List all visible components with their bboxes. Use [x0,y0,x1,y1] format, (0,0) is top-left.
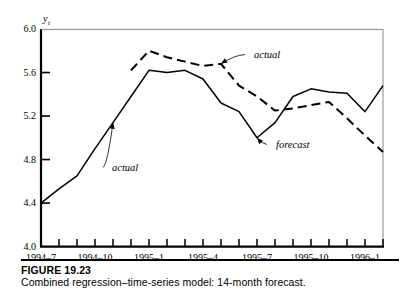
series-line-actual-solid [41,70,383,203]
y-tick-label: 4.8 [24,154,37,165]
plot-axes [40,29,384,247]
caption-text: Combined regression–time-series model: 1… [21,276,401,289]
y-tick-label: 6.0 [24,23,37,34]
y-tick-label: 4.0 [24,241,37,252]
data-series-layer [41,51,383,203]
y-tick-label: 5.6 [24,67,37,78]
line-chart: yt 6.05.65.24.84.44.0 1994–71994–101995–… [0,0,406,297]
annotation-arrowhead [257,138,263,144]
annotation-label-actual: actual [254,49,280,60]
y-axis-title: yt [42,13,51,27]
y-tick-label: 5.2 [24,110,37,121]
caption-divider [21,259,399,261]
annotation-arrowhead [221,58,228,64]
figure-caption: FIGURE 19.23 Combined regression–time-se… [21,259,401,289]
y-tick-label: 4.4 [24,197,37,208]
annotation-label-forecast: forecast [276,139,311,150]
annotation-label-actual: actual [112,162,138,173]
caption-title: FIGURE 19.23 [21,264,401,276]
figure-container: yt 6.05.65.24.84.44.0 1994–71994–101995–… [0,0,406,297]
y-axis-ticks: 6.05.65.24.84.44.0 [24,23,51,252]
y-axis-title-subscript: t [48,19,51,27]
